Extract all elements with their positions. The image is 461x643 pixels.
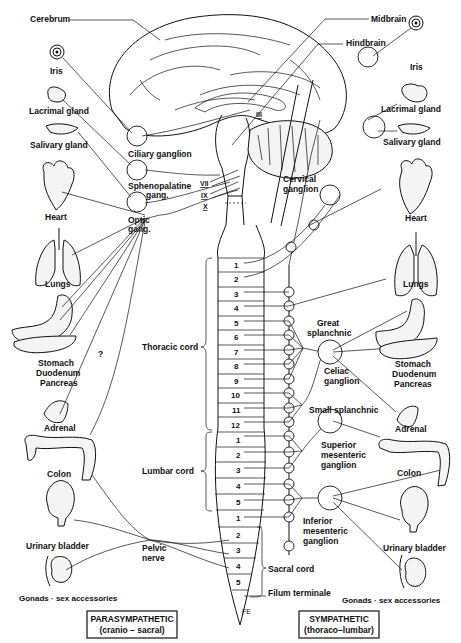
parasympathetic-heart-label: Heart [45,212,67,222]
stomach-duodenum-pancreas-icon [376,299,437,359]
sympathetic-gonads-label: Gonads · sex accessories [342,596,441,605]
svg-text:1: 1 [236,436,241,445]
svg-text:Cervical: Cervical [283,174,316,184]
sympathetic-heart-label: Heart [405,213,427,223]
heart-icon [43,161,74,210]
gonads-icon [46,556,72,586]
sympathetic-colon-label: Colon [397,468,421,478]
urinary-bladder-icon [47,481,75,526]
spinal-cord [215,225,266,625]
sympathetic-organs [376,16,450,588]
sympathetic-stomach-label: Stomach [395,359,431,369]
iris-icon [50,45,64,59]
great-splanchnic-label: Great splanchnic [307,318,352,338]
pelvic-nerve-label-1: Pelvic [142,543,167,553]
svg-text:2: 2 [234,275,239,284]
svg-text:PARASYMPATHETIC: PARASYMPATHETIC [90,614,173,624]
svg-text:2: 2 [236,531,241,540]
svg-text:3: 3 [236,466,241,475]
thoracic-cord-label: Thoracic cord [142,342,198,352]
celiac-ganglion-label: Celiac ganglion [324,366,359,386]
urinary-bladder-icon [401,487,429,532]
pelvic-nerve-label-2: nerve [142,553,165,563]
salivary-gland-icon [46,124,78,134]
parasympathetic-pancreas-label: Pancreas [40,378,78,388]
svg-text:6: 6 [234,333,239,342]
sympathetic-lacrimal-gland-label: Lacrimal gland [381,104,441,114]
svg-text:4: 4 [236,482,241,491]
sacral-cord-label: Sacral cord [268,564,314,574]
svg-text:8: 8 [234,362,239,371]
svg-text:SYMPATHETIC: SYMPATHETIC [309,614,369,624]
parasympathetic-legend: PARASYMPATHETIC (cranio – sacral) [87,611,177,638]
svg-text:ganglion: ganglion [283,184,318,194]
parasympathetic-fibers [60,58,250,570]
sympathetic-lungs-label: Lungs [403,279,429,289]
thoracic-segment-numbers: 1 2 3 4 5 6 7 8 9 10 11 12 [231,261,241,430]
inferior-mesenteric-ganglion-label: Inferior mesenteric ganglion [303,516,348,546]
sphenopalatine-ganglion [127,160,147,180]
cranial-nerve-X: X [203,203,208,210]
svg-text:1: 1 [234,261,239,270]
parasympathetic-lungs-label: Lungs [45,279,71,289]
uncertain-mark: ? [98,349,103,359]
svg-text:11: 11 [232,406,241,415]
svg-text:mesenteric: mesenteric [321,450,366,460]
parasympathetic-stomach-label: Stomach [38,358,74,368]
sympathetic-salivary-gland-label: Salivary gland [383,137,441,147]
colon-icon [379,439,450,486]
svg-text:2: 2 [236,451,241,460]
svg-text:Great: Great [317,318,339,328]
svg-text:Celiac: Celiac [324,366,349,376]
sphenopalatine-gang-label: gang. [146,190,169,200]
svg-text:mesenteric: mesenteric [303,526,348,536]
otic-ganglion [127,192,147,212]
artist-signature: FE [242,608,251,615]
lungs-icon [36,228,81,286]
svg-text:Inferior: Inferior [303,516,333,526]
svg-text:ganglion: ganglion [321,460,356,470]
parasympathetic-iris-label: Iris [50,66,63,76]
svg-text:3: 3 [236,546,241,555]
svg-text:5: 5 [234,319,239,328]
cerebrum-label: Cerebrum [30,14,71,24]
svg-text:ganglion: ganglion [303,536,338,546]
sympathetic-iris-label: Iris [410,62,423,72]
svg-text:(cranio – sacral): (cranio – sacral) [99,625,164,635]
lumbar-cord-label: Lumbar cord [142,466,194,476]
parasympathetic-gonads-label: Gonads · sex accessories [19,594,118,603]
svg-text:Superior: Superior [321,440,357,450]
cranial-nerve-III: III [256,111,262,118]
superior-cervical-ganglion [358,47,378,67]
svg-text:5: 5 [236,578,241,587]
iris-icon [409,16,423,30]
svg-text:ganglion: ganglion [324,376,359,386]
autonomic-nervous-system-diagram: Cerebrum Midbrain Hindbrain III VII IX X… [0,0,461,643]
svg-text:7: 7 [234,348,239,357]
parasympathetic-salivary-gland-label: Salivary gland [30,140,88,150]
svg-text:4: 4 [236,562,241,571]
hindbrain-label: Hindbrain [346,38,386,48]
sacral-segment-numbers: 1 2 3 4 5 [236,514,241,587]
sympathetic-adrenal-label: Adrenal [395,424,427,434]
svg-text:5: 5 [236,498,241,507]
cranial-nerve-IX: IX [201,192,208,199]
parasympathetic-duodenum-label: Duodenum [36,368,81,378]
lacrimal-gland-icon [48,87,66,102]
midbrain-label: Midbrain [371,14,406,24]
superior-mesenteric-ganglion-label: Superior mesenteric ganglion [321,440,366,470]
gonads-icon [400,555,426,588]
parasympathetic-lacrimal-gland-label: Lacrimal gland [29,106,89,116]
svg-text:9: 9 [234,377,239,386]
sympathetic-pancreas-label: Pancreas [394,379,432,389]
stomach-duodenum-pancreas-icon [12,295,76,353]
svg-text:1: 1 [236,514,241,523]
parasympathetic-urinary-bladder-label: Urinary bladder [26,541,90,551]
heart-icon [400,159,432,214]
salivary-gland-icon [398,124,430,134]
inferior-mesenteric-ganglion [318,486,342,510]
ciliary-ganglion-label: Ciliary ganglion [128,149,192,159]
sympathetic-duodenum-label: Duodenum [392,369,437,379]
small-splanchnic-label: Small splanchnic [309,405,379,415]
sympathetic-legend: SYMPATHETIC (thoraco–lumbar) [299,611,379,638]
